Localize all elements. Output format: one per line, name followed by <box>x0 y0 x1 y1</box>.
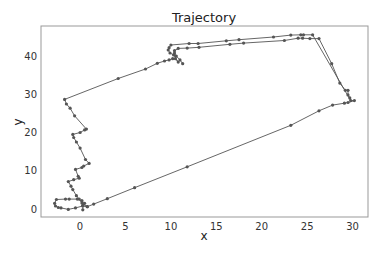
trajectory-point <box>242 42 245 45</box>
trajectory-point <box>133 186 136 189</box>
trajectory-point <box>84 158 87 161</box>
trajectory-point <box>237 38 240 41</box>
trajectory-point <box>81 204 84 207</box>
y-tick-label: 20 <box>24 127 37 138</box>
trajectory-point <box>65 102 68 105</box>
x-axis-label: x <box>200 229 207 243</box>
trajectory-point <box>186 47 189 50</box>
y-tick-label: 30 <box>24 89 37 100</box>
trajectory-point <box>78 198 81 201</box>
trajectory-point <box>54 204 57 207</box>
trajectory-point <box>81 208 84 211</box>
trajectory-point <box>69 107 72 110</box>
trajectory-point <box>346 101 349 104</box>
x-tick-label: 25 <box>301 221 314 232</box>
trajectory-point <box>73 114 76 117</box>
trajectory-point <box>117 77 120 80</box>
x-tick-label: 10 <box>165 221 178 232</box>
trajectory-point <box>72 136 75 139</box>
trajectory-point <box>69 185 72 188</box>
trajectory-point <box>186 165 189 168</box>
trajectory-point <box>144 67 147 70</box>
trajectory-point <box>74 206 77 209</box>
trajectory-point <box>168 46 171 49</box>
trajectory-point <box>75 140 78 143</box>
trajectory-point <box>228 43 231 46</box>
x-tick-label: 15 <box>210 221 223 232</box>
trajectory-point <box>156 62 159 65</box>
trajectory-point <box>289 124 292 127</box>
trajectory-chart: Trajectory 051015202530 010203040 x y <box>0 0 385 256</box>
trajectory-point <box>289 34 292 37</box>
trajectory-point <box>169 43 172 46</box>
trajectory-point <box>74 168 77 171</box>
trajectory-point <box>68 198 71 201</box>
trajectory-point <box>72 178 75 181</box>
trajectory-point <box>297 37 300 40</box>
trajectory-point <box>75 194 78 197</box>
trajectory-point <box>57 206 60 209</box>
trajectory-point <box>55 198 58 201</box>
trajectory-point <box>77 175 80 178</box>
trajectory-point <box>302 33 305 36</box>
trajectory-point <box>168 51 171 54</box>
y-tick-label: 10 <box>24 165 37 176</box>
trajectory-point <box>106 197 109 200</box>
trajectory-point <box>67 208 70 211</box>
trajectory-point <box>163 59 166 62</box>
trajectory-point <box>63 98 66 101</box>
trajectory-point <box>346 93 349 96</box>
x-tick-label: 30 <box>346 221 359 232</box>
trajectory-point <box>283 39 286 42</box>
trajectory-point <box>173 51 176 54</box>
y-tick-label: 40 <box>24 51 37 62</box>
trajectory-point <box>348 96 351 99</box>
x-tick-label: 5 <box>122 221 128 232</box>
trajectory-point <box>225 39 228 42</box>
trajectory-point <box>86 205 89 208</box>
trajectory-point <box>175 55 178 58</box>
trajectory-point <box>83 202 86 205</box>
x-tick-label: 20 <box>255 221 268 232</box>
trajectory-point <box>79 147 82 150</box>
trajectory-point <box>197 42 200 45</box>
trajectory-point <box>71 133 74 136</box>
chart-title: Trajectory <box>171 10 236 25</box>
trajectory-point <box>188 42 191 45</box>
y-axis-label: y <box>11 118 25 125</box>
trajectory-point <box>67 180 70 183</box>
plot-area <box>41 26 368 217</box>
trajectory-point <box>177 47 180 50</box>
trajectory-point <box>92 203 95 206</box>
trajectory-point <box>301 37 304 40</box>
y-tick-label: 0 <box>31 204 37 215</box>
trajectory-point <box>71 188 74 191</box>
trajectory-point <box>178 58 181 61</box>
trajectory-point <box>353 99 356 102</box>
trajectory-point <box>80 201 83 204</box>
trajectory-point <box>331 104 334 107</box>
trajectory-point <box>338 82 341 85</box>
trajectory-point <box>343 102 346 105</box>
trajectory-point <box>344 89 347 92</box>
trajectory-point <box>85 128 88 131</box>
trajectory-point <box>317 37 320 40</box>
trajectory-point <box>59 206 62 209</box>
trajectory-point <box>197 46 200 49</box>
trajectory-point <box>330 62 333 65</box>
trajectory-point <box>181 62 184 65</box>
trajectory-point <box>64 198 67 201</box>
trajectory-point <box>88 162 91 165</box>
trajectory-point <box>311 33 314 36</box>
trajectory-point <box>79 131 82 134</box>
x-tick-label: 0 <box>77 221 83 232</box>
trajectory-point <box>272 35 275 38</box>
trajectory-point <box>308 37 311 40</box>
trajectory-point <box>168 58 171 61</box>
trajectory-point <box>317 109 320 112</box>
trajectory-point <box>82 164 85 167</box>
